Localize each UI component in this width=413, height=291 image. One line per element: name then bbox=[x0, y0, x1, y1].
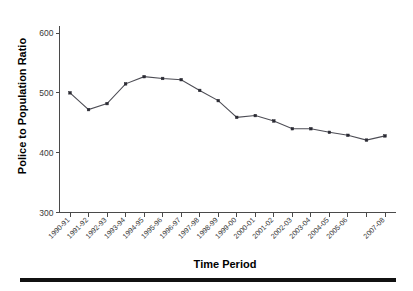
y-tick-label: 600 bbox=[39, 28, 53, 38]
data-point-marker bbox=[161, 77, 164, 80]
y-axis-ticks: 300400500600 bbox=[39, 28, 59, 218]
data-point-marker bbox=[106, 102, 109, 105]
data-point-marker bbox=[273, 120, 276, 123]
x-axis-tick-labels: 1990-911991-921992-931993-941994-951995-… bbox=[46, 216, 386, 241]
data-point-marker bbox=[198, 89, 201, 92]
data-series-line bbox=[70, 77, 385, 140]
chart-figure: Police to Population Ratio 300400500600 … bbox=[0, 0, 413, 291]
x-axis-ticks bbox=[70, 213, 385, 217]
data-point-marker bbox=[180, 78, 183, 81]
data-point-marker bbox=[69, 92, 72, 95]
data-point-marker bbox=[235, 116, 238, 119]
bottom-rule-divider bbox=[20, 278, 396, 282]
data-point-marker bbox=[384, 135, 387, 138]
x-axis-title: Time Period bbox=[60, 258, 390, 270]
data-point-marker bbox=[124, 83, 127, 86]
line-chart-plot: 300400500600 1990-911991-921992-931993-9… bbox=[0, 0, 413, 291]
data-point-marker bbox=[310, 127, 313, 130]
data-point-marker bbox=[217, 99, 220, 102]
data-point-marker bbox=[291, 127, 294, 130]
data-point-marker bbox=[347, 134, 350, 137]
y-tick-label: 400 bbox=[39, 148, 53, 158]
data-point-marker bbox=[328, 131, 331, 134]
y-tick-label: 300 bbox=[39, 208, 53, 218]
data-point-marker bbox=[254, 114, 257, 117]
y-tick-label: 500 bbox=[39, 88, 53, 98]
data-point-marker bbox=[365, 139, 368, 142]
data-point-marker bbox=[143, 75, 146, 78]
x-tick-label: 2007-08 bbox=[361, 216, 386, 241]
data-point-marker bbox=[87, 108, 90, 111]
